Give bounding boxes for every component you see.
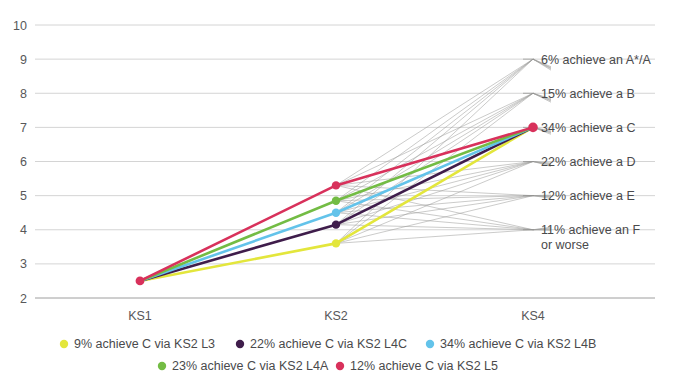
- legend-swatch-3[interactable]: [158, 362, 166, 370]
- y-tick-label: 10: [13, 19, 27, 33]
- legend-group: 9% achieve C via KS2 L322% achieve C via…: [60, 337, 597, 373]
- chart-canvas: 2345678910 KS1KS2KS4 6% achieve an A*/A1…: [0, 0, 673, 387]
- y-tick-label: 9: [20, 53, 27, 67]
- x-category-label-ks4: KS4: [521, 309, 545, 323]
- fan-line: [336, 59, 533, 201]
- legend-label-4[interactable]: 12% achieve C via KS2 L5: [350, 359, 498, 373]
- legend-label-0[interactable]: 9% achieve C via KS2 L3: [74, 337, 215, 351]
- annotation-label-4: 12% achieve a E: [541, 189, 635, 203]
- legend-label-1[interactable]: 22% achieve C via KS2 L4C: [250, 337, 407, 351]
- y-tick-label: 7: [20, 121, 27, 135]
- fan-line: [336, 59, 533, 185]
- series-marker-ks2-0: [332, 239, 340, 247]
- fan-line: [336, 162, 533, 244]
- y-tick-label: 4: [20, 223, 27, 237]
- y-tick-label: 2: [20, 292, 27, 306]
- legend-label-3[interactable]: 23% achieve C via KS2 L4A: [172, 359, 329, 373]
- annotation-label-3: 22% achieve a D: [541, 155, 636, 169]
- y-tick-label: 8: [20, 87, 27, 101]
- series-marker-ks2-3: [332, 197, 340, 205]
- y-tick-label: 6: [20, 155, 27, 169]
- fan-line: [336, 93, 533, 243]
- fan-line: [336, 162, 533, 201]
- series-marker-ks2-1: [332, 220, 340, 228]
- legend-swatch-0[interactable]: [60, 340, 68, 348]
- right-annotations-group: 6% achieve an A*/A15% achieve a B34% ach…: [541, 53, 651, 252]
- legend-swatch-2[interactable]: [426, 340, 434, 348]
- y-tick-label: 5: [20, 189, 27, 203]
- fan-line: [336, 230, 533, 244]
- series-marker-ks2-4: [332, 181, 340, 189]
- annotation-label-1: 15% achieve a B: [541, 87, 635, 101]
- series-marker-ks2-2: [332, 208, 340, 216]
- series-marker-ks1-shared: [136, 277, 145, 286]
- y-tick-label: 3: [20, 257, 27, 271]
- x-axis-category-labels: KS1KS2KS4: [128, 309, 545, 323]
- legend-label-2[interactable]: 34% achieve C via KS2 L4B: [440, 337, 596, 351]
- annotation-leader-lines: [523, 59, 534, 230]
- annotation-label-2: 34% achieve a C: [541, 121, 636, 135]
- annotation-label-5-line2: or worse: [541, 238, 589, 252]
- legend-swatch-4[interactable]: [336, 362, 344, 370]
- fan-line: [336, 185, 533, 229]
- slopegraph-chart: 2345678910 KS1KS2KS4 6% achieve an A*/A1…: [0, 0, 673, 387]
- x-category-label-ks2: KS2: [324, 309, 348, 323]
- y-axis-tick-labels: 2345678910: [13, 19, 27, 306]
- annotation-label-5: 11% achieve an F: [541, 223, 640, 237]
- x-category-label-ks1: KS1: [128, 309, 152, 323]
- legend-swatch-1[interactable]: [236, 340, 244, 348]
- fan-line: [336, 59, 533, 243]
- series-marker-ks4-shared: [528, 123, 538, 133]
- fan-lines-group: [336, 59, 551, 243]
- fan-line: [336, 196, 533, 244]
- annotation-label-0: 6% achieve an A*/A: [541, 53, 651, 67]
